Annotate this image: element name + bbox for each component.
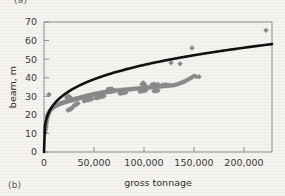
data-point-group <box>43 28 269 136</box>
y-tick-label: 20 <box>25 109 37 120</box>
x-tick-label: 100,000 <box>124 157 163 168</box>
data-point-marker <box>177 61 182 66</box>
y-tick-label: 50 <box>25 54 37 65</box>
panel-label-b: (b) <box>8 180 21 190</box>
x-tick-label: 150,000 <box>174 157 213 168</box>
y-tick-label: 0 <box>31 146 37 157</box>
y-tick-label: 10 <box>25 128 37 139</box>
x-axis-ticks: 050,000100,000150,000200,000 <box>41 147 264 168</box>
data-point-marker <box>196 74 201 79</box>
y-axis-title: beam, m <box>7 66 18 108</box>
data-point-marker <box>263 28 268 33</box>
data-point-marker <box>189 45 194 50</box>
y-tick-label: 60 <box>25 35 37 46</box>
figure-panel: (a) 010203040506070 050,000100,000150,00… <box>0 0 285 196</box>
x-tick-label: 0 <box>41 157 47 168</box>
x-tick-label: 50,000 <box>77 157 110 168</box>
y-tick-label: 70 <box>25 16 37 27</box>
x-axis-title: gross tonnage <box>124 177 192 188</box>
y-tick-label: 40 <box>25 72 37 83</box>
y-tick-label: 30 <box>25 91 37 102</box>
x-tick-label: 200,000 <box>224 157 263 168</box>
scatter-plot: 010203040506070 050,000100,000150,000200… <box>0 0 285 196</box>
